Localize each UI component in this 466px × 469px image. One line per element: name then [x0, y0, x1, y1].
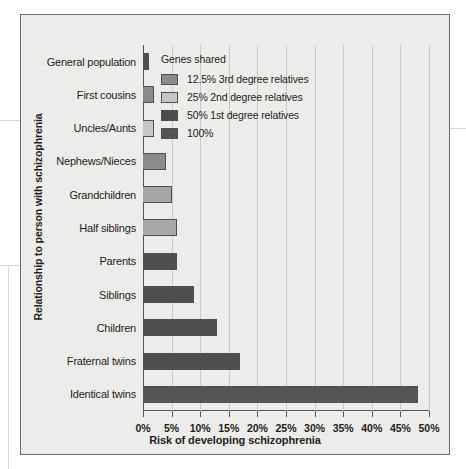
legend-item: 25% 2nd degree relatives	[161, 89, 401, 105]
bar	[143, 219, 177, 236]
tick-mark	[429, 411, 430, 417]
category-label: Children	[97, 322, 136, 334]
figure-root: Relationship to person with schizophreni…	[0, 0, 466, 469]
bar-row: Children	[143, 311, 429, 344]
category-label: Fraternal twins	[67, 355, 136, 367]
y-axis-title: Relationship to person with schizophreni…	[32, 52, 44, 382]
legend-item: 100%	[161, 125, 401, 141]
bar	[143, 319, 217, 336]
tick-mark	[200, 411, 201, 417]
category-label: Uncles/Aunts	[74, 122, 136, 134]
bar-row: Nephews/Nieces	[143, 145, 429, 178]
bar-row: Parents	[143, 245, 429, 278]
scan-artifact-right	[448, 128, 466, 129]
bar	[143, 153, 166, 170]
bar	[143, 353, 240, 370]
bar	[143, 286, 194, 303]
scan-artifact-left-mid	[0, 265, 22, 266]
legend-swatch	[161, 128, 178, 139]
category-label: Parents	[99, 255, 136, 267]
tick-mark	[229, 411, 230, 417]
scan-artifact-left-vert	[8, 265, 9, 469]
legend-item: 50% 1st degree relatives	[161, 107, 401, 123]
bar-row: Half siblings	[143, 211, 429, 244]
tick-mark	[286, 411, 287, 417]
tick-mark	[400, 411, 401, 417]
legend-label: 100%	[187, 127, 213, 139]
bar-row: Fraternal twins	[143, 344, 429, 377]
category-label: General population	[47, 56, 136, 68]
bar-row: Grandchildren	[143, 178, 429, 211]
category-label: Siblings	[99, 289, 136, 301]
tick-mark	[257, 411, 258, 417]
bar	[143, 86, 154, 103]
legend-item: 12.5% 3rd degree relatives	[161, 71, 401, 87]
category-label: Grandchildren	[70, 189, 137, 201]
gridline-50%	[429, 45, 430, 411]
legend-title: Genes shared	[161, 53, 401, 65]
legend-label: 12.5% 3rd degree relatives	[187, 73, 309, 85]
x-tick-label: 50%	[409, 422, 449, 434]
x-axis-title: Risk of developing schizophrenia	[21, 434, 449, 446]
bar	[143, 53, 149, 70]
tick-mark	[172, 411, 173, 417]
category-label: Identical twins	[70, 388, 136, 400]
scan-artifact-left-top	[0, 120, 22, 121]
chart-panel: Relationship to person with schizophreni…	[20, 14, 450, 455]
legend-label: 25% 2nd degree relatives	[187, 91, 302, 103]
bar	[143, 386, 418, 403]
bar	[143, 186, 172, 203]
legend-swatch	[161, 92, 178, 103]
legend-items: 12.5% 3rd degree relatives25% 2nd degree…	[161, 71, 401, 141]
legend-swatch	[161, 74, 178, 85]
legend-swatch	[161, 110, 178, 121]
bar	[143, 120, 154, 137]
bar-row: Siblings	[143, 278, 429, 311]
category-label: Nephews/Nieces	[56, 155, 136, 167]
legend-label: 50% 1st degree relatives	[187, 109, 299, 121]
bar	[143, 253, 177, 270]
tick-mark	[372, 411, 373, 417]
legend: Genes shared 12.5% 3rd degree relatives2…	[161, 53, 401, 143]
tick-mark	[143, 411, 144, 417]
bar-row: Identical twins	[143, 378, 429, 411]
category-label: Half siblings	[79, 222, 136, 234]
category-label: First cousins	[77, 89, 136, 101]
tick-mark	[343, 411, 344, 417]
tick-mark	[315, 411, 316, 417]
